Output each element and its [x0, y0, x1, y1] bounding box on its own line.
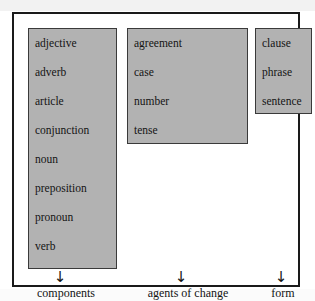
list-item: tense: [134, 125, 158, 137]
down-arrow-icon-agents-of-change: ↓: [174, 270, 188, 284]
list-item: agreement: [134, 38, 182, 50]
list-item: adjective: [35, 38, 77, 50]
list-item: noun: [35, 154, 58, 166]
list-item: conjunction: [35, 125, 89, 137]
list-item: case: [134, 67, 154, 79]
down-arrow-icon-form: ↓: [274, 270, 288, 284]
list-item: number: [134, 96, 169, 108]
category-box-components: adjective adverb article conjunction nou…: [28, 28, 117, 269]
down-arrow-icon-components: ↓: [53, 270, 67, 284]
page-scan-top-edge: [0, 0, 315, 11]
column-label-components: components: [14, 286, 118, 300]
category-box-agents-of-change: agreement case number tense: [127, 28, 248, 144]
list-item: adverb: [35, 67, 66, 79]
list-item: phrase: [262, 67, 292, 79]
list-item: verb: [35, 241, 55, 253]
list-item: preposition: [35, 183, 87, 195]
column-label-agents-of-change: agents of change: [122, 286, 254, 300]
list-item: article: [35, 96, 64, 108]
column-label-form: form: [252, 286, 314, 300]
category-box-form: clause phrase sentence: [255, 28, 312, 114]
list-item: sentence: [262, 96, 302, 108]
list-item: pronoun: [35, 212, 73, 224]
list-item: clause: [262, 38, 291, 50]
diagram-frame: adjective adverb article conjunction nou…: [12, 12, 300, 287]
